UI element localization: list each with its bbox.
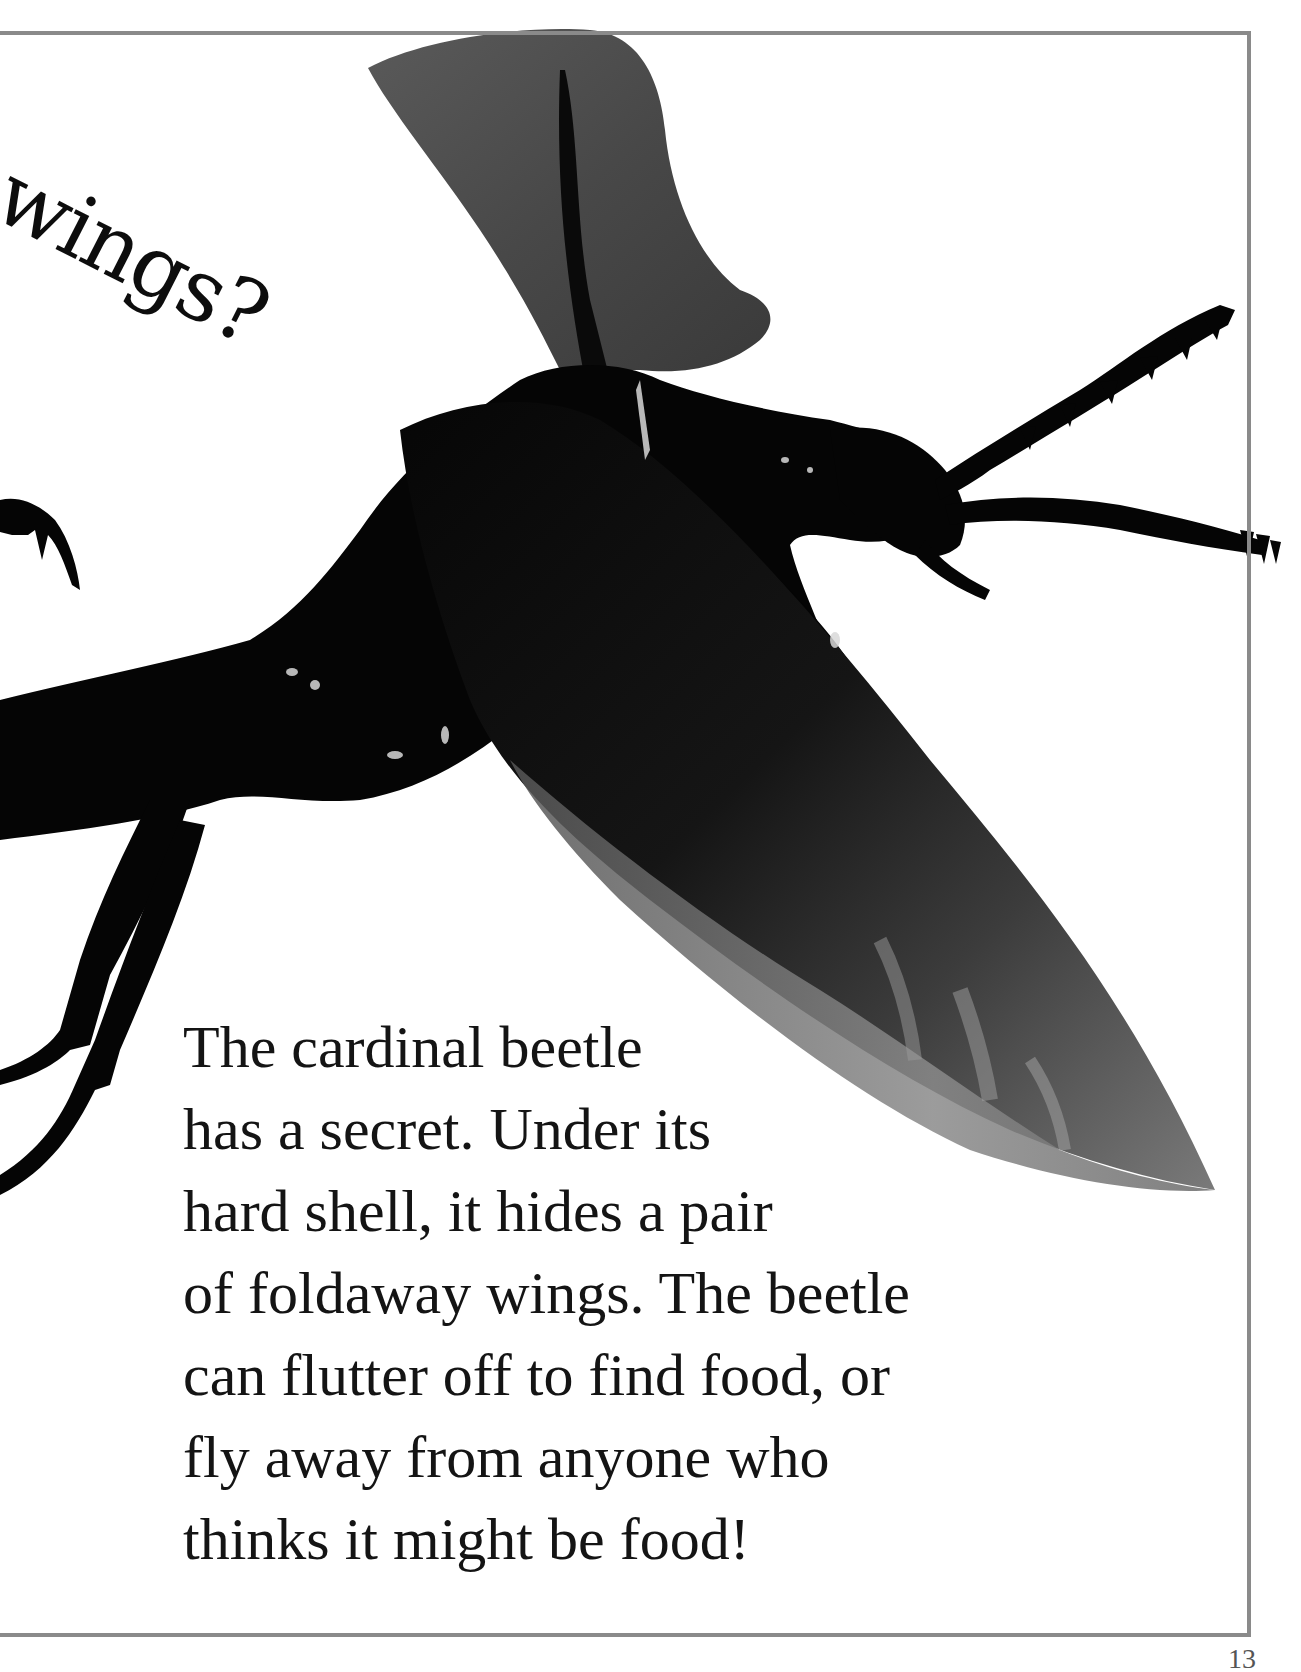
body-line: thinks it might be food! bbox=[183, 1498, 1003, 1580]
page-number: 13 bbox=[1228, 1645, 1256, 1672]
body-line: The cardinal beetle bbox=[183, 1006, 1003, 1088]
body-paragraph: The cardinal beetle has a secret. Under … bbox=[183, 1006, 1003, 1580]
page-frame-right bbox=[1247, 31, 1251, 1637]
body-line: has a secret. Under its bbox=[183, 1088, 1003, 1170]
page-frame-bottom bbox=[0, 1633, 1251, 1637]
body-line: can flutter off to find food, or bbox=[183, 1334, 1003, 1416]
page-frame-top bbox=[0, 31, 1251, 35]
body-line: hard shell, it hides a pair bbox=[183, 1170, 1003, 1252]
antennae bbox=[915, 305, 1281, 600]
body-line: fly away from anyone who bbox=[183, 1416, 1003, 1498]
body-line: of foldaway wings. The beetle bbox=[183, 1252, 1003, 1334]
hind-wing bbox=[368, 29, 770, 380]
